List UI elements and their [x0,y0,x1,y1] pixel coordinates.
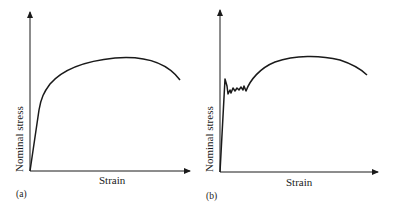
panel-b: Nominal stress Strain (b) [203,10,378,202]
curve-b [220,56,367,172]
ylabel-b: Nominal stress [203,106,215,172]
xlabel-b: Strain [286,176,313,188]
ylabel-a: Nominal stress [13,106,25,172]
xlabel-a: Strain [99,174,126,186]
panel-label-a: (a) [16,189,27,200]
panel-label-b: (b) [206,191,217,202]
curve-a [30,58,180,171]
panel-a: Nominal stress Strain (a) [13,12,190,200]
stress-strain-figure: Nominal stress Strain (a) Nominal stress… [0,0,394,207]
